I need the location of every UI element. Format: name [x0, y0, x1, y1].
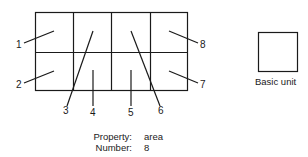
leader-line-3: [67, 31, 93, 106]
number-row: Number: 8: [80, 142, 163, 153]
leader-line-6: [131, 31, 160, 106]
leader-line-2: [24, 71, 54, 83]
basic-unit-box: [259, 33, 298, 72]
callout-2: 2: [16, 80, 22, 90]
callout-3: 3: [63, 106, 69, 116]
number-value: 8: [144, 142, 149, 153]
callout-1: 1: [16, 40, 22, 50]
basic-unit-label: Basic unit: [255, 76, 296, 87]
leader-line-8: [169, 31, 198, 43]
leader-line-7: [169, 71, 198, 83]
property-row: Property: area: [80, 131, 163, 142]
number-key: Number:: [80, 142, 144, 153]
callout-7: 7: [200, 80, 206, 90]
property-key: Property:: [80, 131, 144, 142]
callout-6: 6: [158, 106, 164, 116]
leader-line-1: [24, 31, 54, 43]
callout-5: 5: [128, 108, 134, 118]
property-value: area: [144, 131, 163, 142]
callout-4: 4: [90, 108, 96, 118]
properties-block: Property: area Number: 8: [80, 131, 163, 153]
callout-8: 8: [200, 40, 206, 50]
